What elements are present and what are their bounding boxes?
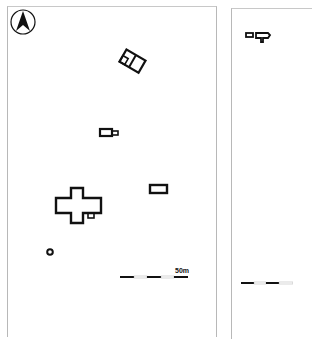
scale-segment [279, 282, 293, 284]
scale-segment [147, 276, 161, 278]
scale-segment [254, 282, 266, 284]
scale-label: 50m [175, 267, 189, 274]
rectangular-building [150, 185, 167, 193]
scale-segment [161, 276, 174, 278]
left-scale-bar [120, 276, 188, 278]
north-letter: N [21, 27, 25, 33]
small-building-with-annex [100, 129, 118, 136]
scale-segment [174, 276, 188, 278]
small-paired-building [246, 33, 270, 42]
cross-shaped-building [56, 188, 101, 223]
scale-segment [266, 282, 279, 284]
scale-segment [120, 276, 134, 278]
rotated-two-room-building [119, 50, 145, 73]
right-scale-bar [241, 282, 293, 284]
scale-segment [134, 276, 147, 278]
north-arrow-icon: N [11, 10, 35, 34]
circular-feature [47, 249, 53, 255]
scale-segment [241, 282, 254, 284]
